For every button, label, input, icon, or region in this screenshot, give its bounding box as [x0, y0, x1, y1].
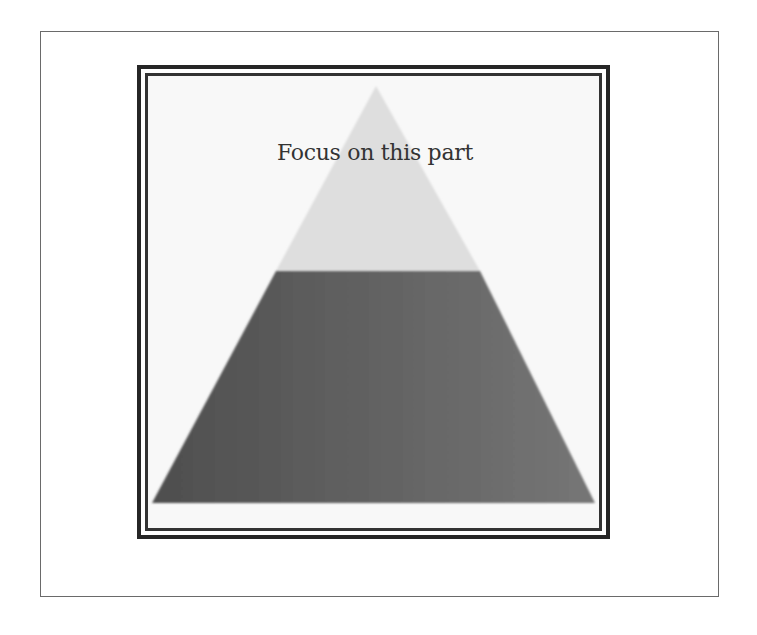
- pyramid-diagram: [0, 0, 757, 635]
- pyramid-caption: Focus on this part: [258, 140, 492, 165]
- pyramid-bottom-section: [152, 271, 595, 503]
- pyramid-top-section: [276, 86, 480, 271]
